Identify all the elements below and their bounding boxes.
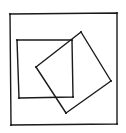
vertex-mark <box>18 97 20 99</box>
vertex-mark <box>80 31 82 33</box>
vertex-mark <box>35 66 37 68</box>
vertex-mark <box>72 96 74 98</box>
inner-square <box>17 40 73 98</box>
vertex-mark <box>116 12 118 14</box>
vertex-mark <box>10 124 12 126</box>
diagram-canvas <box>0 0 126 133</box>
vertex-mark <box>71 39 73 41</box>
vertex-mark <box>16 39 18 41</box>
squares-sketch <box>0 0 126 133</box>
vertex-mark <box>9 13 11 15</box>
vertex-mark <box>110 80 112 82</box>
vertex-mark <box>116 123 118 125</box>
rotated-square <box>36 32 111 113</box>
vertex-mark <box>65 112 67 114</box>
